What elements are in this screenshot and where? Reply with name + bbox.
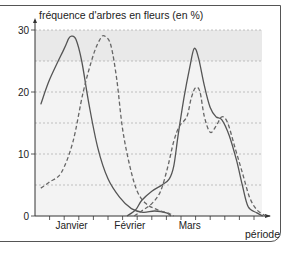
y-axis-arrow-icon	[33, 18, 37, 23]
line-chart: 0102030JanvierFévrierMarsfréquence d'arb…	[0, 0, 285, 254]
y-tick-label: 0	[23, 211, 29, 222]
x-axis-arrow-icon	[265, 214, 271, 218]
x-axis-title: période	[245, 228, 280, 240]
y-tick-label: 30	[18, 25, 30, 36]
y-axis-title: fréquence d'arbres en fleurs (en %)	[39, 9, 203, 21]
x-month-label: Mars	[179, 220, 201, 231]
plot-shading-top	[35, 30, 262, 61]
x-month-label: Février	[114, 220, 146, 231]
y-tick-label: 20	[18, 87, 30, 98]
y-tick-label: 10	[18, 149, 30, 160]
x-month-label: Janvier	[55, 220, 88, 231]
